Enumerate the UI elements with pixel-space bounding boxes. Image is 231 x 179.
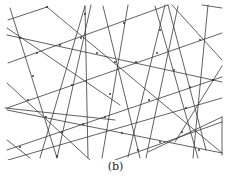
intersection-node bbox=[181, 131, 183, 133]
line-segment bbox=[40, 6, 85, 158]
intersection-node bbox=[61, 131, 63, 133]
intersection-node bbox=[156, 52, 158, 54]
line-segment bbox=[172, 5, 222, 60]
intersection-node bbox=[109, 93, 111, 95]
intersection-node bbox=[80, 37, 82, 39]
figure-caption: (b) bbox=[0, 160, 231, 173]
intersection-node bbox=[137, 149, 139, 151]
intersection-node bbox=[135, 61, 137, 63]
intersection-node bbox=[104, 116, 106, 118]
line-segment bbox=[7, 35, 222, 82]
line-segment bbox=[155, 6, 198, 158]
intersection-node bbox=[45, 116, 47, 118]
line-segment bbox=[7, 28, 120, 105]
intersection-node bbox=[84, 13, 86, 15]
line-segment bbox=[146, 6, 178, 158]
intersection-node bbox=[19, 37, 21, 39]
line-segment bbox=[128, 5, 165, 157]
intersection-node bbox=[71, 84, 73, 86]
intersection-node bbox=[82, 123, 84, 125]
line-segment bbox=[103, 6, 140, 158]
intersection-node bbox=[36, 52, 38, 54]
intersection-node bbox=[27, 99, 29, 101]
line-segment bbox=[202, 5, 222, 8]
intersection-node bbox=[148, 99, 150, 101]
intersection-node bbox=[32, 75, 34, 77]
intersection-node bbox=[114, 61, 116, 63]
intersection-node bbox=[212, 79, 214, 81]
intersection-node bbox=[198, 149, 200, 151]
intersection-node bbox=[56, 155, 58, 157]
intersection-node bbox=[185, 107, 187, 109]
line-arrangement-diagram bbox=[0, 0, 231, 160]
line-segments bbox=[5, 5, 222, 160]
line-segment bbox=[7, 33, 222, 108]
intersection-node bbox=[159, 29, 161, 31]
intersection-node bbox=[189, 86, 191, 88]
intersection-node bbox=[121, 132, 123, 134]
intersection-node bbox=[159, 141, 161, 143]
line-segment bbox=[7, 110, 222, 153]
intersection-node bbox=[59, 44, 61, 46]
intersection-node bbox=[173, 69, 175, 71]
line-segment bbox=[102, 5, 128, 158]
line-segment bbox=[115, 122, 222, 160]
line-segment bbox=[5, 108, 115, 120]
intersection-node bbox=[19, 146, 21, 148]
intersection-node bbox=[96, 52, 98, 54]
intersection-node bbox=[123, 22, 125, 24]
intersection-node bbox=[46, 6, 48, 8]
line-segment bbox=[8, 7, 47, 20]
line-segment bbox=[8, 5, 168, 63]
intersection-node bbox=[199, 39, 201, 41]
